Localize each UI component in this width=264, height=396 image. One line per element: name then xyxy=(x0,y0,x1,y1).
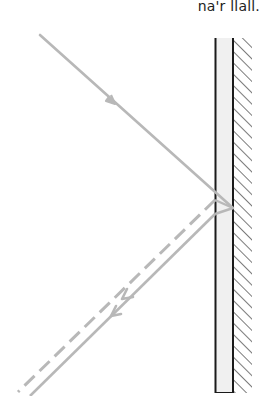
reflection-diagram xyxy=(0,0,264,396)
hatched-backing xyxy=(234,38,252,393)
incident-ray xyxy=(40,35,233,208)
reflected-ray-front-surface xyxy=(18,200,215,392)
reflected-ray-back-surface xyxy=(30,214,215,396)
glass-pane xyxy=(215,38,233,393)
